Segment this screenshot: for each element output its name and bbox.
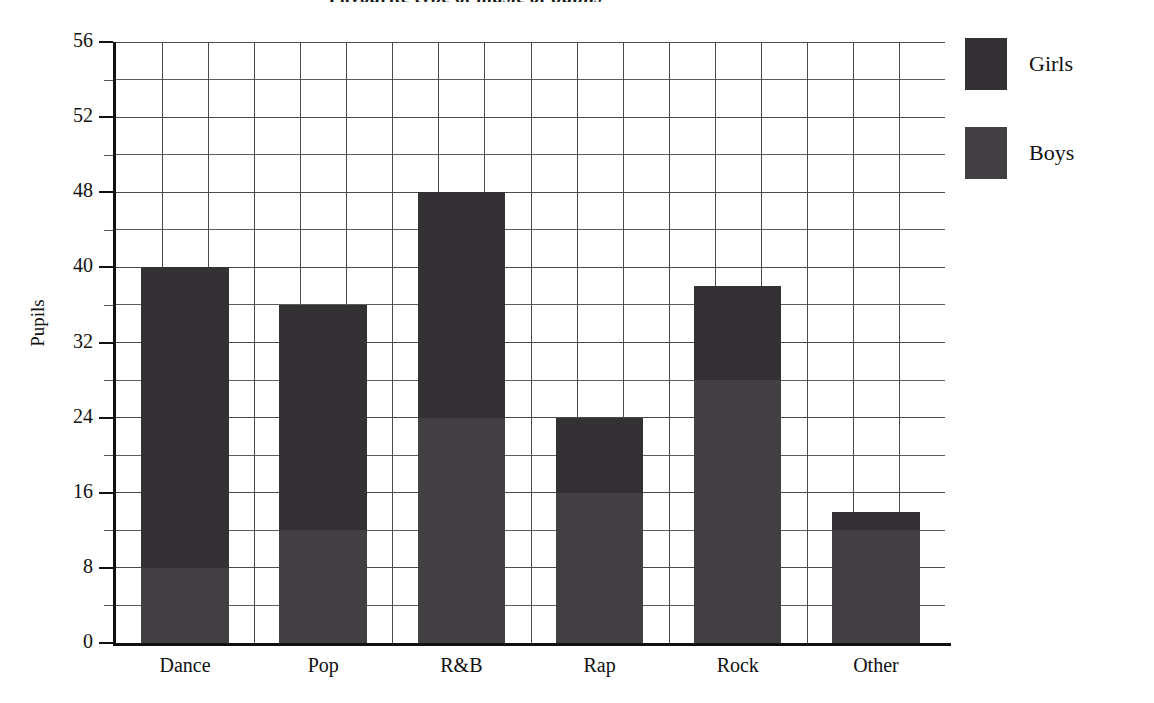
gridline-vertical [531, 42, 532, 643]
y-axis-tick-minor [104, 155, 113, 156]
legend-swatch-boys [965, 127, 1007, 179]
bar-segment-boys [832, 530, 920, 643]
y-axis-tick-minor [104, 455, 113, 456]
chart-figure: Favourite type of music of pupils Pupils… [0, 0, 1154, 703]
y-axis-tick [99, 266, 113, 268]
bar-segment-girls [418, 192, 506, 417]
y-axis-tick [99, 342, 113, 344]
x-axis-line [113, 643, 951, 646]
bar-other [832, 512, 920, 643]
bar-segment-boys [141, 568, 229, 643]
gridline-vertical [669, 42, 670, 643]
y-axis-tick [99, 116, 113, 118]
y-axis-tick [99, 41, 113, 43]
legend-label-girls: Girls [1029, 53, 1073, 75]
legend-item-boys: Boys [965, 127, 1150, 179]
x-axis-label-other: Other [793, 654, 959, 676]
y-axis-tick-label: 0 [35, 631, 93, 651]
gridline-vertical [807, 42, 808, 643]
y-axis-tick-minor [104, 605, 113, 606]
legend-swatch-girls [965, 38, 1007, 90]
bar-segment-boys [418, 418, 506, 643]
bar-dance [141, 267, 229, 643]
y-axis-tick [99, 191, 113, 193]
y-axis-tick-label: 16 [35, 481, 93, 501]
y-axis-tick [99, 642, 113, 644]
bar-segment-girls [141, 267, 229, 568]
bar-rap [556, 418, 644, 643]
y-axis-tick-label: 8 [35, 556, 93, 576]
y-axis-tick-minor [104, 530, 113, 531]
bar-pop [279, 305, 367, 643]
y-axis-tick [99, 417, 113, 419]
y-axis-tick-label: 32 [35, 331, 93, 351]
gridline-vertical [254, 42, 255, 643]
bar-segment-boys [279, 530, 367, 643]
y-axis-tick-minor [104, 230, 113, 231]
y-axis-tick [99, 492, 113, 494]
y-axis-tick-minor [104, 305, 113, 306]
y-axis-tick-label: 24 [35, 406, 93, 426]
bar-segment-boys [556, 493, 644, 643]
bar-r-b [418, 192, 506, 643]
y-axis-title: Pupils [27, 263, 49, 383]
y-axis-tick-label: 40 [35, 255, 93, 275]
y-axis-tick-label: 56 [35, 30, 93, 50]
gridline-vertical [392, 42, 393, 643]
bar-segment-girls [694, 286, 782, 380]
legend-item-girls: Girls [965, 38, 1150, 90]
bar-rock [694, 286, 782, 643]
y-axis-tick-minor [104, 80, 113, 81]
legend-label-boys: Boys [1029, 142, 1074, 164]
plot-area: DancePopR&BRapRockOther [113, 42, 945, 643]
bar-segment-girls [279, 305, 367, 530]
y-axis-tick-minor [104, 380, 113, 381]
y-axis-tick-label: 52 [35, 105, 93, 125]
bar-segment-girls [832, 512, 920, 531]
bar-segment-girls [556, 418, 644, 493]
bar-segment-boys [694, 380, 782, 643]
chart-title: Favourite type of music of pupils [0, 0, 930, 2]
y-axis-tick [99, 567, 113, 569]
chart-legend: GirlsBoys [965, 38, 1150, 216]
plot-inner [116, 42, 945, 643]
y-axis-tick-label: 48 [35, 180, 93, 200]
